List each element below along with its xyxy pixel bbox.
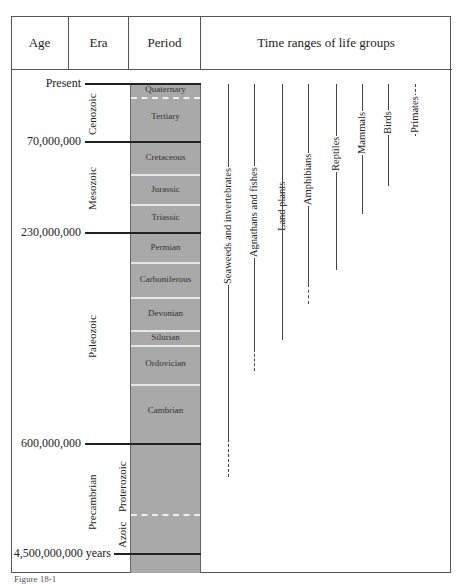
life-line-reptiles-uncertain — [336, 244, 337, 270]
age-line-600m — [85, 443, 201, 445]
period-devonian: Devonian — [131, 308, 200, 318]
life-line-amphibians-uncertain — [308, 284, 309, 304]
life-line-reptiles — [336, 84, 337, 270]
period-divider — [131, 297, 200, 299]
life-label-agnathans: Agnathans and fishes — [248, 166, 259, 258]
era-proterozoic: Proterozoic — [116, 461, 128, 512]
life-label-mammals: Mammals — [356, 111, 367, 155]
age-70m: 70,000,000 — [11, 134, 81, 149]
life-line-birds-uncertain — [388, 160, 389, 186]
life-line-mammals-uncertain — [362, 184, 363, 214]
period-triassic: Triassic — [131, 212, 200, 222]
period-jurassic: Jurassic — [131, 184, 200, 194]
period-divider-dashed — [131, 514, 200, 516]
period-tertiary: Tertiary — [131, 111, 200, 121]
era-paleozoic: Paleozoic — [86, 315, 98, 358]
life-label-birds: Birds — [382, 110, 393, 135]
diagram-frame — [11, 16, 451, 573]
period-permian: Permian — [131, 242, 200, 252]
life-line-agnathans-uncertain — [254, 349, 255, 371]
period-ordovician: Ordovician — [131, 358, 200, 368]
life-label-reptiles: Reptiles — [330, 136, 341, 172]
life-line-land-plants-solid — [282, 84, 283, 310]
era-precambrian: Precambrian — [86, 474, 98, 530]
header-life-groups: Time ranges of life groups — [201, 16, 451, 69]
life-line-land-plants-uncertain — [282, 310, 283, 340]
age-line-70m — [85, 141, 201, 143]
header-period: Period — [129, 16, 200, 69]
age-4500m: 4,500,000,000 years — [11, 546, 111, 561]
header-divider — [11, 69, 452, 70]
period-divider — [131, 204, 200, 206]
life-label-amphibians: Amphibians — [302, 153, 313, 206]
life-label-seaweeds: Seaweeds and invertebrates — [222, 167, 233, 285]
header-era: Era — [69, 16, 128, 69]
header-age: Age — [11, 16, 68, 69]
age-line-4500m — [114, 553, 201, 555]
period-carboniferous: Carboniferous — [131, 274, 200, 284]
period-silurian: Silurian — [131, 332, 200, 342]
era-azoic: Azoic — [116, 522, 128, 548]
life-line-seaweeds-uncertain — [228, 439, 229, 477]
age-230m: 230,000,000 — [11, 225, 81, 240]
period-divider — [131, 384, 200, 386]
period-divider — [131, 262, 200, 264]
age-600m: 600,000,000 — [11, 436, 81, 451]
age-present: Present — [11, 76, 81, 91]
life-label-primates: Primates — [409, 95, 420, 134]
figure-caption: Figure 18-1 — [14, 574, 56, 584]
period-quaternary: Quaternary — [131, 84, 200, 94]
period-cambrian: Cambrian — [131, 405, 200, 415]
era-cenozoic: Cenozoic — [86, 93, 98, 135]
age-line-present — [85, 83, 201, 85]
age-line-230m — [85, 232, 201, 234]
era-mesozoic: Mesozoic — [86, 167, 98, 210]
period-cretaceous: Cretaceous — [131, 152, 200, 162]
period-divider — [131, 174, 200, 176]
period-divider — [131, 345, 200, 347]
period-divider-dashed — [131, 97, 200, 99]
